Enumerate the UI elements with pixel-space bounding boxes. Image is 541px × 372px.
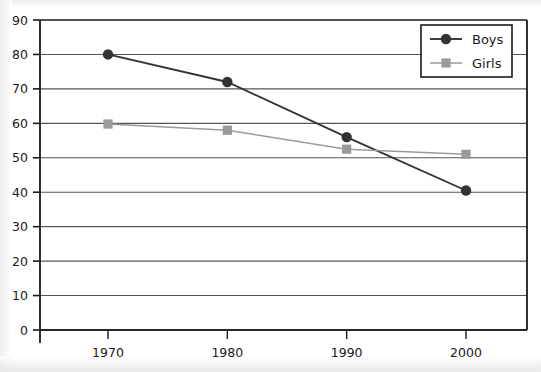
chart-legend[interactable]: BoysGirls: [421, 25, 512, 77]
y-axis-ticks: [33, 20, 40, 330]
y-axis-tick-labels: 0102030405060708090: [12, 13, 28, 338]
x-tick-label-1970: 1970: [92, 345, 124, 360]
x-tick-label-1990: 1990: [331, 345, 363, 360]
x-axis-ticks: [108, 330, 466, 339]
legend-label-girls: Girls: [472, 56, 502, 71]
x-tick-label-2000: 2000: [450, 345, 482, 360]
y-tick-label-50: 50: [12, 150, 28, 165]
data-series-layer: [103, 49, 471, 195]
data-point-boys-1980[interactable]: [222, 77, 232, 87]
y-tick-label-70: 70: [12, 81, 28, 96]
y-tick-label-60: 60: [12, 116, 28, 131]
y-tick-label-40: 40: [12, 185, 28, 200]
y-tick-label-0: 0: [20, 323, 28, 338]
series-line-boys: [108, 54, 466, 190]
y-tick-label-80: 80: [12, 47, 28, 62]
y-tick-label-20: 20: [12, 254, 28, 269]
data-point-boys-1990[interactable]: [341, 132, 351, 142]
legend-marker-circle-icon: [441, 34, 451, 44]
series-girls: [103, 119, 470, 159]
y-tick-label-90: 90: [12, 13, 28, 28]
x-axis-tick-labels: 1970198019902000: [92, 345, 482, 360]
series-boys: [103, 49, 471, 195]
data-point-boys-2000[interactable]: [461, 185, 471, 195]
legend-label-boys: Boys: [472, 32, 504, 47]
y-tick-label-30: 30: [12, 219, 28, 234]
data-point-girls-1990[interactable]: [342, 145, 351, 154]
data-point-girls-1970[interactable]: [103, 119, 112, 128]
data-point-boys-1970[interactable]: [103, 49, 113, 59]
data-point-girls-2000[interactable]: [461, 150, 470, 159]
legend-marker-square-icon: [441, 58, 450, 67]
series-line-girls: [108, 124, 466, 154]
data-point-girls-1980[interactable]: [223, 126, 232, 135]
x-tick-label-1980: 1980: [211, 345, 243, 360]
line-chart: 0102030405060708090 1970198019902000 Boy…: [0, 0, 541, 372]
chart-page: 0102030405060708090 1970198019902000 Boy…: [0, 0, 541, 372]
y-tick-label-10: 10: [12, 288, 28, 303]
